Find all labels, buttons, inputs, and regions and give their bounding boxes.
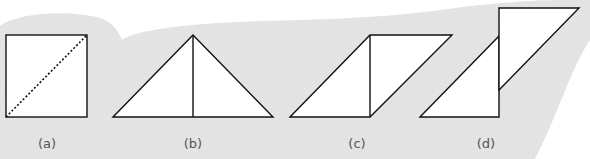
figure-canvas: (a) (b) (c) (d): [0, 0, 590, 159]
panel-d-label: (d): [477, 136, 495, 151]
panel-a-label: (a): [38, 136, 56, 151]
panel-c-label: (c): [348, 136, 365, 151]
panel-b-label: (b): [184, 136, 202, 151]
